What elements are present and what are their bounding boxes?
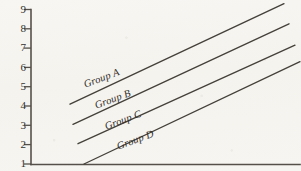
y-tick-label-1: 1 (12, 158, 26, 169)
y-tick-label-5: 5 (12, 81, 26, 92)
y-tick-label-2: 2 (12, 139, 26, 150)
line-chart-figure: 9 8 7 6 5 4 3 2 1 Group A Group B Group … (0, 0, 301, 171)
y-tick-label-9: 9 (12, 4, 26, 15)
y-tick-label-4: 4 (12, 100, 26, 111)
data-lines (70, 4, 300, 164)
plot-area (0, 0, 301, 171)
y-tick-label-3: 3 (12, 120, 26, 131)
y-tick-label-6: 6 (12, 62, 26, 73)
y-tick-label-7: 7 (12, 42, 26, 53)
y-tick-label-8: 8 (12, 23, 26, 34)
series-line-group-a[interactable] (70, 4, 284, 105)
